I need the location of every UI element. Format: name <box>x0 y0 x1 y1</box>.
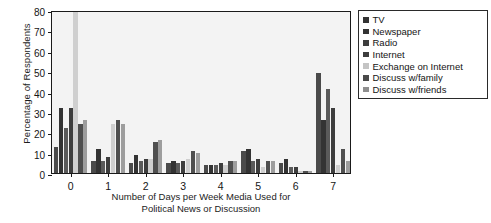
bar <box>78 124 82 173</box>
bar <box>321 120 325 173</box>
y-tick-label: 30 <box>34 108 45 119</box>
bar-group <box>204 12 238 173</box>
bar <box>59 108 63 173</box>
y-tick-label: 0 <box>39 170 45 181</box>
y-axis-title: Percentage of Respondents <box>21 0 32 174</box>
legend-swatch-icon <box>363 75 369 81</box>
bar <box>186 159 190 173</box>
x-tick-mark <box>71 173 72 177</box>
bar-groups <box>52 12 350 173</box>
legend-swatch-icon <box>363 87 369 93</box>
legend-swatch-icon <box>363 52 369 58</box>
bar <box>214 165 218 173</box>
bar <box>251 161 255 173</box>
bar-group <box>316 12 350 173</box>
x-tick-mark <box>108 173 109 177</box>
bar <box>346 161 350 173</box>
x-axis-title-line-1: Number of Days per Week Media Used for <box>51 191 351 203</box>
bar <box>129 163 133 173</box>
y-tick-label: 10 <box>34 149 45 160</box>
bar <box>271 161 275 173</box>
bar <box>69 108 73 173</box>
legend-item: Exchange on Internet <box>363 60 484 72</box>
bar <box>166 163 170 173</box>
bar <box>336 165 340 173</box>
bar <box>279 163 283 173</box>
legend-item: Discuss w/friends <box>363 84 484 96</box>
legend-item-label: Discuss w/friends <box>373 84 447 95</box>
bar <box>294 167 298 173</box>
bar <box>308 171 312 173</box>
bar <box>134 155 138 173</box>
bar-chart-figure: Percentage of Respondents 01020304050607… <box>0 0 491 223</box>
bar <box>266 161 270 173</box>
bar <box>219 163 223 173</box>
bar <box>54 147 58 173</box>
legend-item-label: Internet <box>373 49 405 60</box>
bar <box>284 159 288 173</box>
legend-item-label: Discuss w/family <box>373 72 443 83</box>
bar-group <box>129 12 163 173</box>
legend-item: Radio <box>363 37 484 49</box>
bar <box>196 153 200 173</box>
legend-item: Newspaper <box>363 26 484 38</box>
x-tick-mark <box>221 173 222 177</box>
bar <box>233 161 237 173</box>
x-tick-mark <box>258 173 259 177</box>
bar <box>191 151 195 173</box>
bar <box>326 89 330 173</box>
bar <box>176 163 180 173</box>
bar <box>256 159 260 173</box>
bar <box>298 171 302 173</box>
bar <box>153 142 157 173</box>
bar-group <box>279 12 313 173</box>
bar <box>241 151 245 173</box>
bar <box>101 161 105 173</box>
bar <box>289 167 293 173</box>
y-tick-label: 40 <box>34 88 45 99</box>
bar <box>148 159 152 173</box>
legend-item: Discuss w/family <box>363 72 484 84</box>
bar <box>209 165 213 173</box>
bar <box>331 108 335 173</box>
legend-swatch-icon <box>363 29 369 35</box>
bar <box>83 120 87 173</box>
bar <box>64 128 68 173</box>
legend-swatch-icon <box>363 63 369 69</box>
y-tick-label: 20 <box>34 129 45 140</box>
legend-item-label: Exchange on Internet <box>373 61 463 72</box>
legend-item-label: TV <box>373 14 385 25</box>
legend-item-label: Newspaper <box>373 26 421 37</box>
bar <box>261 167 265 173</box>
bar <box>121 124 125 173</box>
x-tick-mark <box>183 173 184 177</box>
bar <box>171 161 175 173</box>
bar <box>96 149 100 173</box>
bar <box>204 165 208 173</box>
legend-item: Internet <box>363 49 484 61</box>
x-tick-mark <box>333 173 334 177</box>
x-axis-title: Number of Days per Week Media Used for P… <box>51 191 351 214</box>
bar <box>91 161 95 173</box>
bar <box>106 157 110 173</box>
bar <box>139 161 143 173</box>
bar <box>341 149 345 173</box>
bar <box>111 124 115 173</box>
bar <box>246 149 250 173</box>
bar <box>116 120 120 173</box>
x-tick-mark <box>146 173 147 177</box>
bar <box>181 161 185 173</box>
bar-group <box>54 12 88 173</box>
bar-group <box>91 12 125 173</box>
bar <box>316 73 320 173</box>
y-tick-label: 80 <box>34 7 45 18</box>
bar-group <box>166 12 200 173</box>
bar <box>223 165 227 173</box>
legend-swatch-icon <box>363 17 369 23</box>
y-tick-label: 70 <box>34 27 45 38</box>
bar <box>228 161 232 173</box>
bar-group <box>241 12 275 173</box>
bar <box>73 12 77 173</box>
y-tick-label: 50 <box>34 68 45 79</box>
bar <box>303 171 307 173</box>
